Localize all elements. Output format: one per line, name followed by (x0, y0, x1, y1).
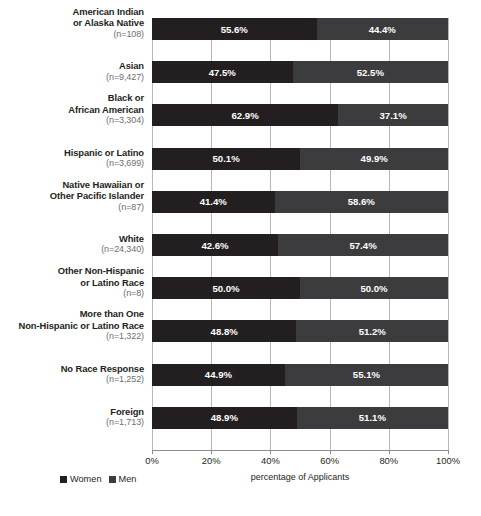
bar-track: 55.6%44.4% (152, 18, 448, 40)
category-label-line: Foreign (0, 406, 144, 417)
legend-swatch-icon (60, 476, 67, 483)
legend-label: Women (70, 474, 102, 484)
x-axis-tick (448, 450, 449, 454)
bar-segment-women: 42.6% (152, 234, 278, 256)
category-label: More than OneNon-Hispanic or Latino Race… (0, 308, 144, 342)
category-count: (n=3,304) (0, 115, 144, 126)
category-label-line: Black or (0, 92, 144, 103)
bar-segment-women: 44.9% (152, 364, 285, 386)
category-count: (n=108) (0, 29, 144, 40)
bar-value-label: 62.9% (231, 110, 258, 121)
category-label-line: Native Hawaiian or (0, 179, 144, 190)
bar-track: 62.9%37.1% (152, 104, 448, 126)
bar-track: 42.6%57.4% (152, 234, 448, 256)
category-label: Foreign(n=1,713) (0, 406, 144, 429)
bar-segment-men: 55.1% (285, 364, 448, 386)
chart-row: No Race Response(n=1,252)44.9%55.1% (0, 364, 481, 407)
x-axis-tick-label: 0% (129, 455, 175, 466)
category-label: American Indianor Alaska Native(n=108) (0, 6, 144, 40)
bar-segment-women: 55.6% (152, 18, 317, 40)
bar-track: 47.5%52.5% (152, 61, 448, 83)
x-axis-tick-label: 80% (366, 455, 412, 466)
category-label-line: African American (0, 104, 144, 115)
bar-value-label: 44.4% (369, 24, 396, 35)
bar-value-label: 57.4% (349, 240, 376, 251)
bar-value-label: 49.9% (361, 153, 388, 164)
bar-track: 50.0%50.0% (152, 277, 448, 299)
bar-segment-women: 50.1% (152, 148, 300, 170)
x-axis-tick-label: 100% (425, 455, 471, 466)
bar-segment-men: 58.6% (275, 191, 448, 213)
bar-value-label: 48.8% (211, 326, 238, 337)
stacked-bar-chart: American Indianor Alaska Native(n=108)55… (0, 0, 481, 516)
bar-value-label: 55.1% (353, 369, 380, 380)
category-count: (n=87) (0, 202, 144, 213)
category-label: Asian(n=9,427) (0, 60, 144, 83)
bar-value-label: 37.1% (379, 110, 406, 121)
bar-value-label: 48.9% (211, 412, 238, 423)
bar-segment-women: 41.4% (152, 191, 275, 213)
category-label: Native Hawaiian orOther Pacific Islander… (0, 179, 144, 213)
bar-segment-women: 50.0% (152, 277, 300, 299)
category-count: (n=9,427) (0, 72, 144, 83)
legend-label: Men (119, 474, 137, 484)
bar-segment-men: 51.2% (296, 320, 448, 342)
category-label: Hispanic or Latino(n=3,699) (0, 147, 144, 170)
chart-legend: WomenMen (60, 474, 136, 484)
legend-swatch-icon (109, 476, 116, 483)
bar-value-label: 51.2% (359, 326, 386, 337)
bar-segment-women: 62.9% (152, 104, 338, 126)
category-count: (n=24,340) (0, 244, 144, 255)
x-axis-tick (270, 450, 271, 454)
category-label-line: White (0, 233, 144, 244)
bar-value-label: 51.1% (359, 412, 386, 423)
category-label-line: More than One (0, 308, 144, 319)
bar-segment-men: 37.1% (338, 104, 448, 126)
category-label: No Race Response(n=1,252) (0, 363, 144, 386)
bar-segment-women: 48.9% (152, 407, 297, 429)
bar-value-label: 55.6% (221, 24, 248, 35)
chart-row: Black orAfrican American(n=3,304)62.9%37… (0, 104, 481, 147)
bar-segment-men: 49.9% (300, 148, 448, 170)
bar-value-label: 50.0% (212, 283, 239, 294)
x-axis-tick-label: 40% (247, 455, 293, 466)
bar-value-label: 42.6% (201, 240, 228, 251)
legend-item: Women (60, 474, 102, 484)
chart-plot-area: American Indianor Alaska Native(n=108)55… (0, 18, 481, 450)
x-axis-tick-label: 20% (188, 455, 234, 466)
x-axis-tick (330, 450, 331, 454)
x-axis-title: percentage of Applicants (152, 472, 448, 482)
x-axis-tick-label: 60% (307, 455, 353, 466)
category-label-line: or Latino Race (0, 277, 144, 288)
bar-value-label: 50.0% (360, 283, 387, 294)
category-count: (n=1,322) (0, 331, 144, 342)
category-label-line: Asian (0, 60, 144, 71)
x-axis-tick (211, 450, 212, 454)
category-count: (n=1,713) (0, 417, 144, 428)
bar-value-label: 52.5% (357, 67, 384, 78)
chart-row: More than OneNon-Hispanic or Latino Race… (0, 320, 481, 363)
x-axis-line (152, 450, 449, 451)
bar-segment-men: 57.4% (278, 234, 448, 256)
bar-value-label: 50.1% (213, 153, 240, 164)
bar-track: 44.9%55.1% (152, 364, 448, 386)
category-label-line: Other Pacific Islander (0, 190, 144, 201)
chart-row: Native Hawaiian orOther Pacific Islander… (0, 191, 481, 234)
category-label-line: No Race Response (0, 363, 144, 374)
category-label-line: Other Non-Hispanic (0, 265, 144, 276)
bar-track: 48.9%51.1% (152, 407, 448, 429)
category-label: White(n=24,340) (0, 233, 144, 256)
bar-segment-men: 51.1% (297, 407, 448, 429)
bar-segment-women: 48.8% (152, 320, 296, 342)
bar-value-label: 44.9% (205, 369, 232, 380)
chart-row: American Indianor Alaska Native(n=108)55… (0, 18, 481, 61)
category-count: (n=1,252) (0, 374, 144, 385)
bar-segment-men: 50.0% (300, 277, 448, 299)
category-label: Black orAfrican American(n=3,304) (0, 92, 144, 126)
bar-value-label: 58.6% (348, 196, 375, 207)
legend-item: Men (109, 474, 137, 484)
chart-row: Foreign(n=1,713)48.9%51.1% (0, 407, 481, 450)
x-axis-tick (152, 450, 153, 454)
category-label-line: Non-Hispanic or Latino Race (0, 320, 144, 331)
bar-segment-men: 52.5% (293, 61, 448, 83)
